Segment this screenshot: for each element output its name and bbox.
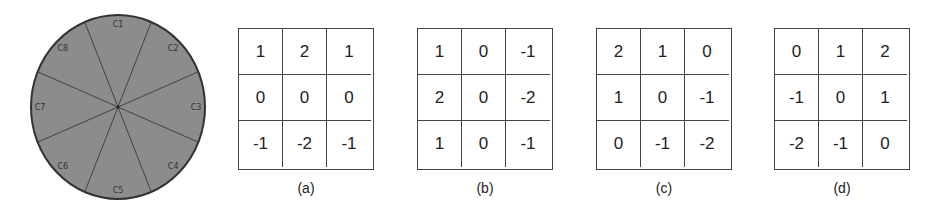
sector-label-c5: C5 xyxy=(113,186,124,195)
sector-label-c1: C1 xyxy=(113,20,124,29)
kernel-grid: 2 1 0 1 0 -1 0 -1 -2 xyxy=(596,28,732,170)
kernel-cell: 0 xyxy=(685,29,729,75)
kernel-cell: 2 xyxy=(418,75,462,121)
kernel-cell: 1 xyxy=(418,29,462,75)
center-point xyxy=(117,106,120,109)
sector-label-c7: C7 xyxy=(35,103,46,112)
kernel-cell: -1 xyxy=(685,75,729,121)
kernel-cell: -2 xyxy=(685,121,729,167)
kernel-cell: -2 xyxy=(283,121,327,167)
sector-circle-diagram: C1C2C3C4C5C6C7C8 xyxy=(28,12,210,204)
sector-label-c2: C2 xyxy=(168,44,179,53)
kernel-grid: 0 1 2 -1 0 1 -2 -1 0 xyxy=(774,28,910,170)
kernel-cell: 2 xyxy=(863,29,907,75)
sector-label-c6: C6 xyxy=(58,162,69,171)
kernel-grid: 1 2 1 0 0 0 -1 -2 -1 xyxy=(238,28,374,170)
kernel-cell: -1 xyxy=(239,121,283,167)
kernel-cell: 0 xyxy=(462,121,506,167)
kernel-cell: 0 xyxy=(283,75,327,121)
kernel-cell: 2 xyxy=(597,29,641,75)
kernel-b: 1 0 -1 2 0 -2 1 0 -1 xyxy=(417,28,553,170)
kernel-cell: 0 xyxy=(327,75,371,121)
kernel-cell: 0 xyxy=(597,121,641,167)
sector-label-c4: C4 xyxy=(168,162,179,171)
kernel-a: 1 2 1 0 0 0 -1 -2 -1 xyxy=(238,28,374,170)
kernel-cell: -1 xyxy=(641,121,685,167)
kernel-d: 0 1 2 -1 0 1 -2 -1 0 xyxy=(774,28,910,170)
kernel-cell: 1 xyxy=(641,29,685,75)
kernel-cell: -1 xyxy=(327,121,371,167)
kernel-cell: 1 xyxy=(863,75,907,121)
kernel-cell: 0 xyxy=(239,75,283,121)
kernel-grid: 1 0 -1 2 0 -2 1 0 -1 xyxy=(417,28,553,170)
kernel-cell: -2 xyxy=(506,75,550,121)
kernel-cell: 1 xyxy=(418,121,462,167)
kernel-caption-c: (c) xyxy=(596,180,732,196)
kernel-cell: 0 xyxy=(819,75,863,121)
kernel-cell: -1 xyxy=(506,121,550,167)
kernel-cell: 0 xyxy=(775,29,819,75)
kernel-cell: 1 xyxy=(597,75,641,121)
kernel-cell: -1 xyxy=(506,29,550,75)
kernel-c: 2 1 0 1 0 -1 0 -1 -2 xyxy=(596,28,732,170)
kernel-cell: -1 xyxy=(775,75,819,121)
kernel-caption-d: (d) xyxy=(774,180,910,196)
sector-label-c8: C8 xyxy=(58,44,69,53)
kernel-cell: 0 xyxy=(462,75,506,121)
kernel-cell: 0 xyxy=(641,75,685,121)
sector-label-c3: C3 xyxy=(191,103,202,112)
kernel-cell: 0 xyxy=(462,29,506,75)
kernel-cell: 2 xyxy=(283,29,327,75)
kernel-caption-b: (b) xyxy=(417,180,553,196)
kernel-cell: 1 xyxy=(239,29,283,75)
kernel-cell: -2 xyxy=(775,121,819,167)
kernel-cell: 0 xyxy=(863,121,907,167)
kernel-cell: -1 xyxy=(819,121,863,167)
kernel-cell: 1 xyxy=(819,29,863,75)
circle-svg: C1C2C3C4C5C6C7C8 xyxy=(28,12,210,204)
kernel-caption-a: (a) xyxy=(238,180,374,196)
kernel-cell: 1 xyxy=(327,29,371,75)
